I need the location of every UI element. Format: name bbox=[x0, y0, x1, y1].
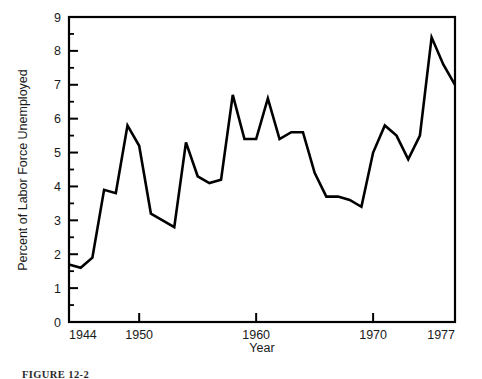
figure-page: 0123456789 19441950196019701977 Year Per… bbox=[0, 0, 482, 379]
x-tick-label: 1977 bbox=[427, 328, 455, 342]
x-tick-label: 1970 bbox=[359, 328, 387, 342]
unemployment-line-chart: 0123456789 19441950196019701977 Year Per… bbox=[0, 0, 482, 360]
chart-figure: 0123456789 19441950196019701977 Year Per… bbox=[0, 0, 482, 360]
y-tick-label: 0 bbox=[54, 316, 61, 330]
y-tick-label: 9 bbox=[54, 11, 61, 25]
figure-caption: FIGURE 12-2 bbox=[22, 368, 89, 379]
y-tick-label: 4 bbox=[54, 180, 61, 194]
y-axis-title: Percent of Labor Force Unemployed bbox=[16, 69, 30, 271]
y-tick-label: 1 bbox=[54, 282, 61, 296]
y-tick-label: 8 bbox=[54, 44, 61, 58]
y-tick-label: 3 bbox=[54, 214, 61, 228]
x-axis-title: Year bbox=[249, 341, 274, 355]
x-tick-label: 1950 bbox=[125, 328, 153, 342]
y-tick-label: 5 bbox=[54, 146, 61, 160]
x-tick-label: 1960 bbox=[242, 328, 270, 342]
x-tick-label: 1944 bbox=[69, 328, 97, 342]
chart-background bbox=[0, 0, 482, 360]
y-tick-label: 2 bbox=[54, 248, 61, 262]
y-tick-label: 7 bbox=[54, 78, 61, 92]
y-tick-label: 6 bbox=[54, 112, 61, 126]
